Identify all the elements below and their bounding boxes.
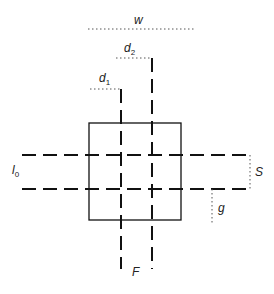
label-d1-subscript: 1	[106, 78, 110, 87]
label-d2: d2	[124, 42, 135, 57]
label-w: w	[134, 14, 143, 26]
label-F-text: F	[132, 265, 139, 279]
label-d1-text: d	[99, 71, 106, 85]
label-g-text: g	[218, 201, 225, 215]
label-l0: l0	[12, 164, 19, 179]
square	[89, 123, 181, 220]
label-F: F	[132, 266, 139, 278]
label-g: g	[218, 202, 225, 214]
label-S: S	[255, 166, 263, 178]
diagram-canvas: w d2 d1 l0 S g F	[0, 0, 274, 294]
label-d1: d1	[99, 72, 110, 87]
label-d2-text: d	[124, 41, 131, 55]
label-S-text: S	[255, 165, 263, 179]
diagram-drawing	[0, 0, 274, 294]
label-d2-subscript: 2	[131, 48, 135, 57]
label-l0-subscript: 0	[15, 170, 19, 179]
label-w-text: w	[134, 13, 143, 27]
